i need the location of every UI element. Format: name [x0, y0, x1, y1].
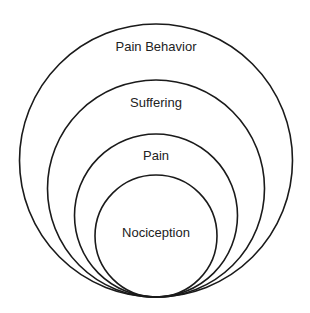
label-suffering: Suffering [130, 95, 182, 110]
label-nociception: Nociception [122, 225, 190, 240]
label-pain: Pain [143, 148, 169, 163]
label-pain-behavior: Pain Behavior [116, 39, 198, 54]
nested-circles-diagram: Pain Behavior Suffering Pain Nociception [0, 0, 310, 313]
circle-suffering [48, 80, 265, 297]
